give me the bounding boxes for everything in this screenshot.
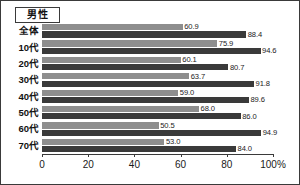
x-axis-tick — [42, 154, 43, 157]
bar-value-label: 94.6 — [262, 47, 276, 55]
bar — [42, 64, 228, 70]
x-axis-tick — [273, 154, 274, 157]
bar-group: 10代75.994.6 — [1, 39, 300, 55]
bars-container: 68.086.0 — [42, 105, 273, 121]
bars-container: 59.089.6 — [42, 89, 273, 105]
bar — [42, 90, 178, 96]
category-label: 50代 — [3, 108, 39, 118]
x-axis-tick — [227, 154, 228, 157]
bar — [42, 122, 159, 128]
category-label: 30代 — [3, 75, 39, 85]
category-label: 20代 — [3, 59, 39, 69]
bar-group: 全体60.988.4 — [1, 23, 300, 39]
x-axis-tick-label: 80 — [221, 159, 232, 170]
bar — [42, 106, 199, 112]
bar — [42, 113, 241, 119]
bar — [42, 48, 261, 54]
bar-rows: 全体60.988.410代75.994.620代60.180.730代63.79… — [1, 23, 300, 154]
bars-container: 60.180.7 — [42, 56, 273, 72]
bar-group: 50代68.086.0 — [1, 105, 300, 121]
bar-value-label: 68.0 — [201, 105, 215, 113]
bars-container: 50.594.9 — [42, 121, 273, 137]
bar — [42, 146, 236, 152]
x-axis-tick-label: 100% — [260, 159, 286, 170]
bar — [42, 73, 189, 79]
category-label: 10代 — [3, 43, 39, 53]
bar — [42, 81, 254, 87]
bar-value-label: 60.1 — [182, 56, 196, 64]
bar-chart: 男性 全体60.988.410代75.994.620代60.180.730代63… — [0, 0, 300, 185]
bar — [42, 139, 164, 145]
bar-value-label: 88.4 — [248, 31, 262, 39]
bar-value-label: 75.9 — [219, 40, 233, 48]
bar — [42, 57, 181, 63]
chart-title-badge: 男性 — [15, 7, 60, 23]
x-axis-tick — [134, 154, 135, 157]
bar-value-label: 84.0 — [238, 145, 252, 153]
bar-group: 30代63.791.8 — [1, 72, 300, 88]
x-axis-tick — [181, 154, 182, 157]
x-axis-line — [42, 154, 274, 155]
bar-value-label: 60.9 — [184, 23, 198, 31]
bar-value-label: 94.9 — [263, 129, 277, 137]
x-axis-tick-label: 20 — [83, 159, 94, 170]
x-axis-tick — [88, 154, 89, 157]
x-axis-tick-label: 0 — [39, 159, 45, 170]
bar-value-label: 63.7 — [191, 73, 205, 81]
category-label: 40代 — [3, 92, 39, 102]
bar — [42, 24, 183, 30]
bar-group: 70代53.084.0 — [1, 138, 300, 154]
bar-value-label: 89.6 — [250, 96, 264, 104]
bar — [42, 40, 217, 46]
x-axis-tick-label: 40 — [129, 159, 140, 170]
category-label: 70代 — [3, 141, 39, 151]
bar-value-label: 91.8 — [256, 80, 270, 88]
bar-value-label: 80.7 — [230, 64, 244, 72]
x-axis-tick-label: 60 — [175, 159, 186, 170]
bars-container: 53.084.0 — [42, 138, 273, 154]
category-label: 60代 — [3, 124, 39, 134]
bar-group: 40代59.089.6 — [1, 89, 300, 105]
bar-value-label: 59.0 — [180, 89, 194, 97]
bars-container: 63.791.8 — [42, 72, 273, 88]
bar-group: 20代60.180.7 — [1, 56, 300, 72]
bar-value-label: 50.5 — [160, 122, 174, 130]
bar-group: 60代50.594.9 — [1, 121, 300, 137]
category-label: 全体 — [3, 26, 39, 36]
bar-value-label: 53.0 — [166, 138, 180, 146]
bar — [42, 97, 249, 103]
bar — [42, 31, 246, 37]
bar-value-label: 86.0 — [242, 113, 256, 121]
bar — [42, 130, 261, 136]
bars-container: 60.988.4 — [42, 23, 273, 39]
plot-area: 全体60.988.410代75.994.620代60.180.730代63.79… — [1, 23, 300, 185]
bars-container: 75.994.6 — [42, 39, 273, 55]
